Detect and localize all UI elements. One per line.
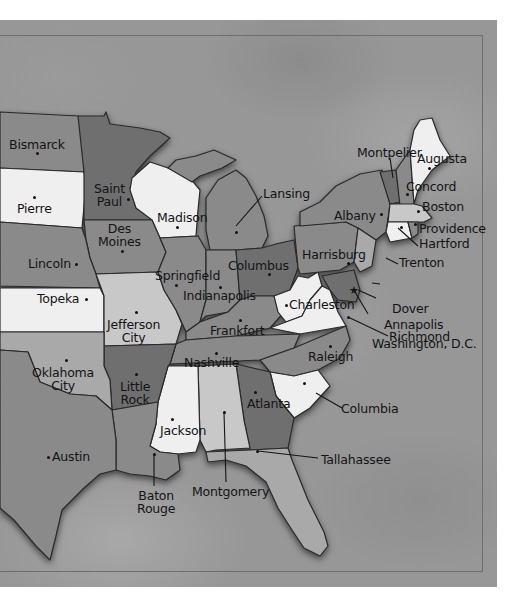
capital-dot-springfield: [175, 284, 178, 287]
label-des-moines: Des Moines: [98, 222, 141, 248]
label-lincoln: Lincoln: [28, 257, 71, 270]
capital-dot-hartford: [400, 226, 403, 229]
label-columbus: Columbus: [228, 259, 289, 272]
capital-dot-des-moines: [121, 250, 124, 253]
washington-dc-star-icon: ★: [349, 284, 359, 297]
capital-dot-lincoln: [75, 263, 78, 266]
label-atlanta: Atlanta: [247, 397, 290, 410]
capital-dot-frankfort: [239, 319, 242, 322]
capital-dot-saint-paul: [127, 198, 130, 201]
capital-dot-oklahoma-city: [65, 359, 68, 362]
label-montgomery: Montgomery: [192, 485, 269, 498]
label-harrisburg: Harrisburg: [302, 248, 366, 261]
capital-dot-jackson: [171, 418, 174, 421]
label-springfield: Springfield: [155, 269, 220, 282]
label-nashville: Nashville: [184, 356, 239, 369]
label-frankfort: Frankfort: [210, 324, 265, 337]
capital-dot-montgomery: [223, 411, 226, 414]
label-columbia: Columbia: [341, 402, 398, 415]
label-baton-rouge: Baton Rouge: [137, 489, 175, 515]
capital-dot-little-rock: [135, 373, 138, 376]
label-bismarck: Bismarck: [9, 138, 65, 151]
label-indianapolis: Indianapolis: [183, 289, 256, 302]
capital-dot-providence: [414, 223, 417, 226]
label-montpelier: Montpelier: [357, 146, 422, 159]
capital-dot-baton-rouge: [153, 453, 156, 456]
label-jefferson-city: Jefferson City: [107, 318, 160, 344]
label-austin: Austin: [52, 450, 90, 463]
label-madison: Madison: [157, 211, 208, 224]
label-augusta: Augusta: [417, 152, 467, 165]
capital-dot-lansing: [235, 231, 238, 234]
label-dover: Dover: [392, 302, 429, 315]
capital-dot-columbus: [268, 273, 271, 276]
capital-dot-richmond: [347, 316, 350, 319]
label-little-rock: Little Rock: [120, 380, 150, 406]
label-concord: Concord: [406, 180, 456, 193]
label-providence: Providence: [419, 222, 486, 235]
label-pierre: Pierre: [17, 202, 52, 215]
label-lansing: Lansing: [263, 187, 310, 200]
label-raleigh: Raleigh: [308, 350, 353, 363]
capital-dot-boston: [417, 210, 420, 213]
capital-dot-austin: [47, 456, 50, 459]
capital-dot-madison: [176, 226, 179, 229]
capital-dot-albany: [380, 213, 383, 216]
capital-dot-tallahassee: [256, 450, 259, 453]
label-washington-dc: Washington, D.C.: [372, 337, 477, 350]
capital-dot-raleigh: [329, 345, 332, 348]
label-charleston: Charleston: [289, 298, 355, 311]
label-annapolis: Annapolis: [384, 318, 443, 331]
label-boston: Boston: [422, 200, 464, 213]
capital-dot-bismarck: [36, 152, 39, 155]
capital-dot-augusta: [428, 167, 431, 170]
capital-dot-charleston: [285, 304, 288, 307]
capital-dot-atlanta: [254, 391, 257, 394]
capital-dot-jefferson-city: [135, 311, 138, 314]
capital-dot-harrisburg: [347, 262, 350, 265]
capital-dot-columbia: [303, 382, 306, 385]
label-tallahassee: Tallahassee: [321, 453, 391, 466]
label-jackson: Jackson: [160, 424, 206, 437]
label-oklahoma-city: Oklahoma City: [32, 366, 94, 392]
capital-dot-pierre: [33, 196, 36, 199]
label-trenton: Trenton: [399, 256, 444, 269]
label-hartford: Hartford: [419, 237, 469, 250]
label-albany: Albany: [334, 209, 376, 222]
label-saint-paul: Saint Paul: [94, 182, 125, 208]
label-topeka: Topeka: [37, 292, 79, 305]
capital-dot-topeka: [85, 298, 88, 301]
